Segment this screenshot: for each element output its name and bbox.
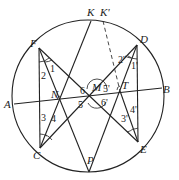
angle-label-2-prime: 2' xyxy=(118,54,125,65)
label-e: E xyxy=(139,143,147,155)
label-b: B xyxy=(163,83,170,95)
label-t: T xyxy=(122,79,129,91)
angle-label-3-prime: 3' xyxy=(121,113,128,124)
angle-label-6: 6 xyxy=(80,85,85,96)
label-p: P xyxy=(86,154,94,166)
angle-label-3: 3 xyxy=(41,112,46,123)
label-m: M xyxy=(91,81,102,93)
angle-label-4: 4 xyxy=(51,113,56,124)
angle-label-2: 2 xyxy=(41,70,46,81)
label-k-prime: K' xyxy=(99,6,110,18)
angle-label-5: 5 xyxy=(78,99,83,110)
angle-label-4-prime: 4' xyxy=(130,104,137,115)
label-n: N xyxy=(50,88,59,100)
label-k: K xyxy=(86,6,95,18)
angle-label-1: 1 xyxy=(50,63,55,74)
chord-fc xyxy=(39,48,40,148)
butterfly-theorem-diagram: K K' F D A B N M T C E P 1 2 3 4 5 6 1' … xyxy=(0,0,179,180)
angle-label-1-prime: 1' xyxy=(131,60,138,71)
label-a: A xyxy=(3,98,11,110)
angle-arc-e2 xyxy=(127,129,133,132)
label-c: C xyxy=(33,149,41,161)
label-d: D xyxy=(139,33,148,45)
angle-label-6-prime: 6' xyxy=(101,97,108,108)
label-f: F xyxy=(29,37,37,49)
chord-fp xyxy=(39,48,89,172)
angle-label-5-prime: 5' xyxy=(103,83,110,94)
chord-ab xyxy=(14,88,162,104)
